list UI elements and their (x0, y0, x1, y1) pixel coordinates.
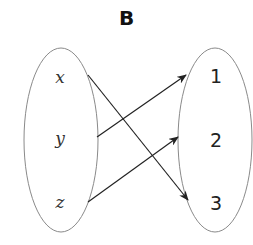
codomain-element-2: 2 (210, 129, 222, 151)
arrow-z-to-2 (88, 137, 178, 202)
domain-element-z: z (55, 192, 66, 212)
arrow-x-to-3 (88, 75, 188, 200)
codomain-element-3: 3 (210, 192, 222, 214)
codomain-element-1: 1 (210, 65, 222, 87)
mapping-diagram: x y z 1 2 3 (0, 0, 253, 245)
domain-element-x: x (55, 67, 65, 87)
domain-element-y: y (54, 128, 65, 148)
arrow-y-to-1 (97, 75, 186, 137)
